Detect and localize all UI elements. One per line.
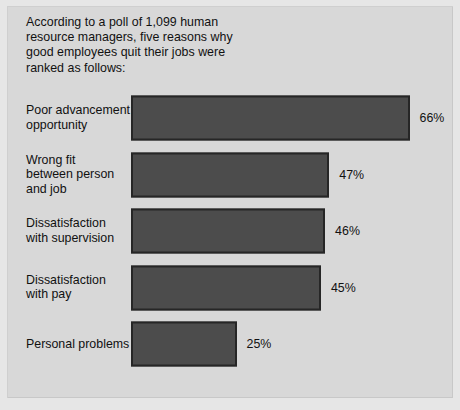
chart-plate: According to a poll of 1,099 human resou… [7,6,453,398]
bar-category-label: Wrong fit between person and job [26,153,132,197]
chart-figure: According to a poll of 1,099 human resou… [0,0,460,410]
bar [131,265,321,310]
bar-value-label: 25% [247,337,272,351]
bar-row: Personal problems25% [8,316,454,373]
bar-row: Wrong fit between person and job47% [8,147,454,204]
bar-category-label: Personal problems [26,337,132,352]
bar-row: Dissatisfaction with pay45% [8,260,454,317]
bar [131,152,329,197]
bar [131,322,237,367]
bar-value-label: 45% [331,281,356,295]
bar-category-label: Poor advancement opportunity [26,104,132,133]
bar-value-label: 47% [339,168,364,182]
bar [131,209,325,254]
bar-value-label: 66% [420,111,445,125]
bar-row: Poor advancement opportunity66% [8,90,454,147]
bar-category-label: Dissatisfaction with supervision [26,217,132,246]
bar [131,96,410,141]
bar-rows: Poor advancement opportunity66%Wrong fit… [8,7,454,399]
bar-row: Dissatisfaction with supervision46% [8,203,454,260]
bar-value-label: 46% [335,224,360,238]
bar-category-label: Dissatisfaction with pay [26,273,132,302]
